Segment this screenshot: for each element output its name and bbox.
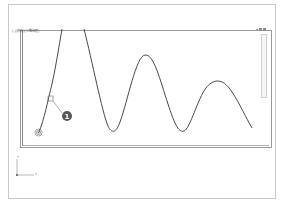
spline-curve-continued[interactable] <box>84 29 252 131</box>
ucs-y-label: Y <box>17 155 19 159</box>
callout-badge: 1 <box>62 111 72 121</box>
callout-number: 1 <box>65 113 70 121</box>
ucs-x-label: X <box>35 172 37 176</box>
callout-leader-line <box>53 101 62 113</box>
spline-curve[interactable] <box>39 29 62 132</box>
start-point-marker-icon[interactable] <box>35 129 42 136</box>
ucs-icon: Y X <box>14 155 44 180</box>
